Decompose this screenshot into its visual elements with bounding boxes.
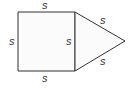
label-square-left: s <box>9 35 15 47</box>
label-triangle-upper: s <box>100 14 106 26</box>
label-triangle-lower: s <box>100 55 106 67</box>
label-square-top: s <box>42 0 48 11</box>
label-shared-side: s <box>66 35 72 47</box>
label-square-bottom: s <box>42 72 48 84</box>
square-triangle-diagram: s s s s s s <box>0 0 134 88</box>
